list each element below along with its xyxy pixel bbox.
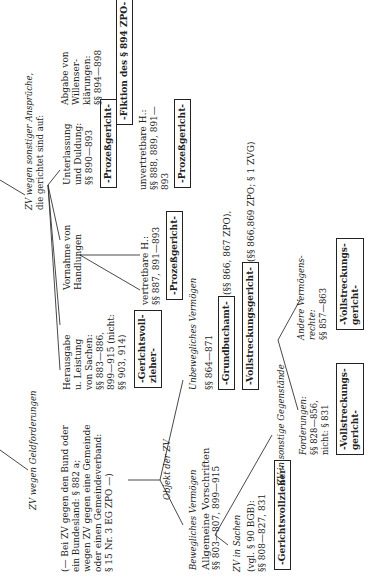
- fiktion-box: -Fiktion des § 894 ZPO-: [116, 0, 133, 125]
- note-line: oder einen Gemeindeverband:: [93, 424, 104, 572]
- sachen-heading: ZV in Sachen: [232, 515, 243, 572]
- andere-line: Andere Vermögens-: [296, 255, 307, 340]
- prozessgericht-box-unvertretbar: -Prozeßgericht-: [174, 99, 191, 188]
- note-line: (— Bei ZV gegen den Bund oder: [60, 424, 71, 572]
- beweglich-heading: Bewegliches Vermögen: [188, 470, 199, 570]
- vornahme-line: Handlungen: [73, 225, 84, 290]
- herausgabe: Herausgabe u. Leistung von Sachen: §§ 88…: [62, 314, 128, 390]
- sachen-line: §§ 808—827, 831: [257, 494, 268, 572]
- vertretbar-line: §§ 887, 891—893: [151, 227, 162, 305]
- abgabe-line: Willenser-: [71, 50, 82, 105]
- unvertretbar-line: §§ 888, 889, 891—: [149, 106, 160, 190]
- organ-line: zieher-: [148, 315, 159, 383]
- note-line: ein Bundesland: § 882 a;: [71, 424, 82, 572]
- andere-line: §§ 857—863: [318, 255, 329, 340]
- unbeweglich-heading: Unbewegliches Vermögen: [188, 278, 199, 390]
- objekt-label: Objekt der ZV: [162, 439, 173, 500]
- grundbuchamt-box: -Grundbuchamt-: [218, 296, 235, 390]
- forderungen-line: nicht: § 831: [320, 396, 331, 455]
- unterlassung-line: §§ 890—893: [84, 123, 95, 185]
- heading-line: ZV wegen sonstiger Ansprüche,: [24, 73, 35, 210]
- herausgabe-line: §§ 903, 914): [117, 314, 128, 390]
- prozessgericht-box-vertretbar: -Prozeßgericht-: [166, 211, 183, 300]
- sachen-line: (vgl. § 90 BGB):: [246, 494, 257, 572]
- organ-line: -Vollstreckungs-: [339, 368, 350, 450]
- diagram-page: ZV wegen Geldforderungen (— Bei ZV gegen…: [0, 0, 378, 580]
- vertretbar-line: vertretbare H.:: [140, 227, 151, 305]
- forderungen: Forderungen: §§ 828—856, nicht: § 831: [298, 396, 331, 455]
- unvertretbar: unvertretbare H.: §§ 888, 889, 891— 893: [138, 106, 171, 190]
- organ-line: -Gerichtsvoll-: [137, 315, 148, 383]
- andere-line: rechte:: [307, 255, 318, 340]
- beweglich-allg: Allgemeine Vorschriften §§ 803—807, 899—…: [200, 448, 222, 570]
- vornahme-line: Vornahme von: [62, 225, 73, 290]
- gerichtsvollzieher-box-herausgabe: -Gerichtsvoll- zieher-: [134, 310, 162, 388]
- vollstreckungsgericht-box-andere: -Vollstreckungs- gericht-: [336, 238, 364, 330]
- forderungen-line: §§ 828—856,: [309, 396, 320, 455]
- abgabe-line: §§ 894—898: [93, 50, 104, 105]
- unvertretbar-line: 893: [160, 106, 171, 190]
- sonstig-heading: ZV wegen sonstiger Ansprüche, die gerich…: [24, 73, 46, 210]
- unbeweglich-paragraphs: §§ 864—871: [204, 335, 215, 390]
- vornahme: Vornahme von Handlungen: [62, 225, 84, 290]
- vollstreckungsgericht-ref: (§§ 866,869 ZPO; § 1 ZVG): [246, 142, 257, 262]
- vertretbar: vertretbare H.: §§ 887, 891—893: [140, 227, 162, 305]
- abgabe-line: klärungen:: [82, 50, 93, 105]
- abgabe-line: Abgabe von: [60, 50, 71, 105]
- herausgabe-line: von Sachen:: [84, 314, 95, 390]
- allg-line: §§ 803—807, 899—915: [211, 448, 222, 570]
- grundbuchamt-ref: (§§ 866, 867 ZPO),: [222, 211, 233, 295]
- geld-heading: ZV wegen Geldforderungen: [28, 391, 39, 510]
- organ-line: -Vollstreckungs-: [339, 243, 350, 325]
- herausgabe-line: 899—915 (nicht:: [106, 314, 117, 390]
- herausgabe-line: u. Leistung: [73, 314, 84, 390]
- organ-line: gericht-: [350, 368, 361, 450]
- unvertretbar-line: unvertretbare H.:: [138, 106, 149, 190]
- geld-note: (— Bei ZV gegen den Bund oder ein Bundes…: [60, 424, 115, 572]
- note-line: § 15 Nr. 3 EG ZPO —): [104, 424, 115, 572]
- vollstreckungsgericht-box-forderungen: -Vollstreckungs- gericht-: [336, 363, 364, 455]
- sonstige-heading: ZV in sonstige Gegenstände: [276, 364, 287, 485]
- abgabe: Abgabe von Willenser- klärungen: §§ 894—…: [60, 50, 104, 105]
- heading-line: die gerichtet sind auf:: [35, 73, 46, 210]
- unterlassung: Unterlassung und Duldung: §§ 890—893: [62, 123, 95, 185]
- allg-line: Allgemeine Vorschriften: [200, 448, 211, 570]
- organ-line: gericht-: [350, 243, 361, 325]
- andere-rechte: Andere Vermögens- rechte: §§ 857—863: [296, 255, 329, 340]
- unterlassung-line: Unterlassung: [62, 123, 73, 185]
- prozessgericht-box-unterlassung: -Prozeßgericht-: [100, 99, 117, 188]
- vollstreckungsgericht-box-unbeweglich: -Vollstreckungsgericht-: [242, 262, 259, 390]
- sachen-text: (vgl. § 90 BGB): §§ 808—827, 831: [246, 494, 268, 572]
- unterlassung-line: und Duldung:: [73, 123, 84, 185]
- forderungen-line: Forderungen:: [298, 396, 309, 455]
- herausgabe-line: §§ 883—886,: [95, 314, 106, 390]
- herausgabe-line: Herausgabe: [62, 314, 73, 390]
- note-line: wegen ZV gegen eine Gemeinde: [82, 424, 93, 572]
